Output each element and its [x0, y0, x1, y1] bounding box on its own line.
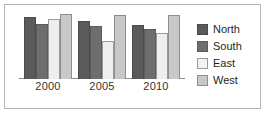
bar-south-2010[interactable]: [144, 29, 156, 79]
x-axis-tick-label: 2010: [129, 79, 183, 93]
west-swatch-icon: [197, 75, 208, 86]
bar-east-2000[interactable]: [48, 19, 60, 79]
north-swatch-icon: [197, 24, 208, 35]
bar-west-2005[interactable]: [114, 15, 126, 79]
bar-east-2005[interactable]: [102, 41, 114, 79]
figure-border: 2000 2005 2010 North South East West: [4, 4, 261, 109]
east-swatch-icon: [197, 58, 208, 69]
bar-group-2005: [78, 11, 127, 79]
x-axis-tick-label: 2005: [75, 79, 129, 93]
south-swatch-icon: [197, 41, 208, 52]
bar-group-2010: [132, 11, 181, 79]
chart-legend: North South East West: [197, 22, 259, 90]
legend-label-north: North: [213, 24, 240, 35]
x-axis-tick-label: 2000: [21, 79, 75, 93]
bar-west-2000[interactable]: [60, 14, 72, 79]
legend-item-north[interactable]: North: [197, 22, 259, 37]
bar-south-2005[interactable]: [90, 26, 102, 79]
legend-item-east[interactable]: East: [197, 56, 259, 71]
legend-item-south[interactable]: South: [197, 39, 259, 54]
legend-label-west: West: [213, 75, 238, 86]
bar-west-2010[interactable]: [168, 15, 180, 79]
bar-east-2010[interactable]: [156, 33, 168, 79]
bar-north-2000[interactable]: [24, 17, 36, 79]
bar-north-2010[interactable]: [132, 25, 144, 79]
bar-group-2000: [24, 11, 73, 79]
plot-area: 2000 2005 2010: [19, 11, 185, 93]
chart-figure: 2000 2005 2010 North South East West: [0, 0, 267, 115]
legend-label-east: East: [213, 58, 235, 69]
bar-south-2000[interactable]: [36, 24, 48, 79]
legend-item-west[interactable]: West: [197, 73, 259, 88]
bar-north-2005[interactable]: [78, 21, 90, 79]
legend-label-south: South: [213, 41, 242, 52]
